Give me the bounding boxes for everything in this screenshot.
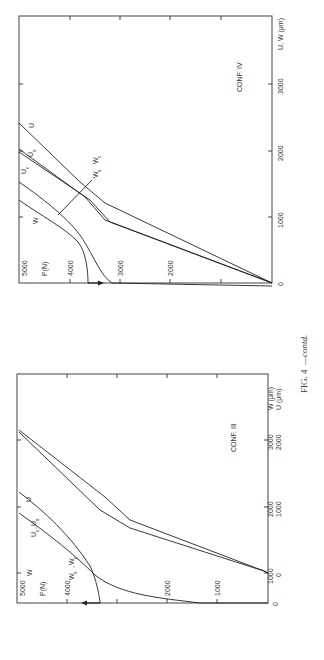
curve-label-w: W	[32, 217, 39, 224]
caption-prefix: FIG. 4	[299, 369, 309, 393]
labels-conf-iv: 5000 P(N) 4000 3000 2000 0 1000 2000 300…	[20, 18, 285, 286]
ticks-left	[17, 440, 21, 573]
tick-label-p-2000: 2000	[167, 260, 174, 276]
tick-label-p-4000: 4000	[67, 260, 74, 276]
tick-label-u-2000: 2000	[275, 434, 282, 450]
curve-w	[19, 200, 88, 283]
labels-conf-iii: 5000 P(N) 4000 2000 1000 0 1000 0 2000 1…	[19, 387, 283, 606]
chart-conf-iv: 5000 P(N) 4000 3000 2000 0 1000 2000 300…	[19, 16, 285, 286]
arrow-load-marker	[88, 281, 104, 286]
axis-label-p: P(N)	[41, 262, 49, 276]
tick-label-p-4000: 4000	[64, 580, 71, 596]
caption-suffix: —contd.	[299, 335, 309, 366]
svg-text:c: c	[96, 155, 102, 158]
curve-uc	[19, 152, 272, 283]
tick-label-w-1000: 1000	[267, 568, 274, 584]
tick-label-w-3000: 3000	[267, 434, 274, 450]
curve-label-ws-wc: W s W c	[92, 155, 102, 178]
svg-text:s: s	[31, 149, 37, 152]
curve-label-w: W	[26, 569, 33, 576]
svg-text:s: s	[96, 169, 102, 172]
curve-us	[19, 149, 272, 283]
tick-label-p-5000: 5000	[19, 580, 26, 596]
curve-label-u: U	[25, 497, 32, 502]
ticks-top	[67, 374, 217, 378]
curve-uc-us	[19, 432, 268, 573]
ticks-top	[70, 16, 221, 20]
axis-label-u: U (μm)	[275, 388, 283, 410]
curve-u	[19, 123, 272, 283]
curve-label-us: U s	[27, 149, 37, 157]
curve-label-u: U	[28, 123, 35, 128]
tick-label-p-1000: 1000	[214, 580, 221, 596]
svg-text:,: ,	[30, 527, 37, 529]
tick-label-uw-0: 0	[277, 282, 284, 286]
curve-label-uc: U c	[20, 166, 30, 174]
axis-label-p: P(N)	[39, 582, 47, 596]
tick-label-p-0: 0	[272, 602, 279, 606]
curve-label-ws-wc: W s , W c	[68, 556, 78, 580]
tick-label-u-1000: 1000	[275, 501, 282, 517]
plot-frame	[17, 374, 268, 603]
figure-canvas: 5000 P(N) 4000 3000 2000 0 1000 2000 300…	[0, 0, 324, 660]
arrow-load-marker	[81, 601, 100, 606]
tick-label-uw-1000: 1000	[277, 212, 284, 228]
figure-caption: FIG. 4 —contd.	[299, 335, 309, 393]
tick-label-p-2000: 2000	[164, 580, 171, 596]
tick-label-uw-2000: 2000	[277, 145, 284, 161]
plot-frame	[19, 16, 272, 283]
conf-label: CONF. IV	[236, 62, 243, 92]
axis-label-uw: U, W (μm)	[277, 18, 285, 50]
ticks-uw-axis	[268, 84, 272, 217]
axis-label-w: W (μm)	[267, 387, 275, 410]
curve-ws-wc	[19, 492, 100, 603]
svg-text:s: s	[34, 518, 40, 521]
curves	[19, 123, 272, 286]
tick-label-uw-3000: 3000	[277, 78, 284, 94]
curves	[19, 430, 268, 603]
curve-ws-wc	[19, 182, 272, 286]
tick-label-w-2000: 2000	[267, 501, 274, 517]
tick-label-p-3000: 3000	[117, 260, 124, 276]
svg-text:c: c	[24, 166, 30, 169]
svg-text:,: ,	[68, 566, 75, 568]
chart-conf-iii: 5000 P(N) 4000 2000 1000 0 1000 0 2000 1…	[17, 374, 283, 606]
tick-label-u-0: 0	[275, 573, 282, 577]
svg-text:s: s	[72, 571, 78, 574]
tick-label-p-5000: 5000	[21, 260, 28, 276]
conf-label: CONF. III	[230, 423, 237, 452]
